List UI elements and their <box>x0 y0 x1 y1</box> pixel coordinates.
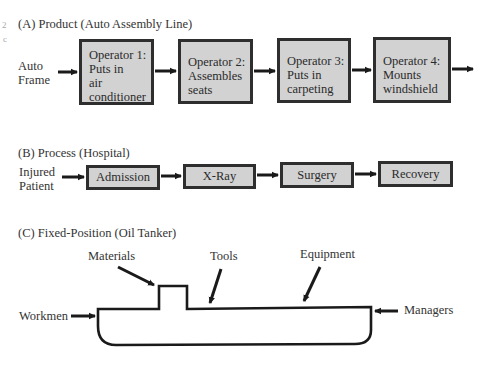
diagram-lines <box>0 0 488 369</box>
tools-arrow-icon <box>210 269 221 303</box>
equipment-arrow-icon <box>304 267 320 301</box>
oil-tanker-outline <box>98 286 371 345</box>
materials-arrow-icon <box>118 267 154 285</box>
